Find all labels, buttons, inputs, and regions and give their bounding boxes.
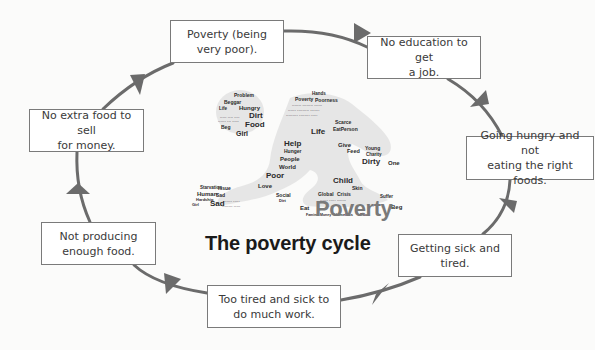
word-cloud-word: Dirt	[279, 199, 286, 203]
cycle-connector	[483, 180, 510, 234]
word-cloud-word: Issue	[218, 186, 231, 191]
arrowhead-icon	[164, 273, 181, 294]
word-cloud-word: One	[388, 160, 400, 166]
arrowhead-icon	[66, 183, 90, 194]
cycle-step-no-education: No education to get a job.	[367, 36, 481, 79]
word-cloud-word: Dirty	[362, 158, 380, 166]
cycle-step-poverty: Poverty (being very poor).	[170, 20, 284, 63]
word-cloud-word: Young	[365, 146, 380, 151]
word-cloud-word: Problem	[234, 93, 254, 98]
word-cloud-word: Beg	[391, 204, 402, 210]
word-cloud-word: Girl	[236, 130, 248, 137]
cycle-step-too-tired: Too tired and sick to do much work.	[207, 285, 341, 328]
word-cloud-word: Poverty	[295, 97, 313, 102]
word-cloud-word: Food	[245, 121, 265, 129]
word-cloud-word: Dirt	[249, 112, 263, 120]
cycle-step-getting-sick: Getting sick and tired.	[398, 234, 512, 277]
word-cloud-word: Eat	[300, 205, 309, 211]
word-cloud-word: Skin	[352, 186, 363, 191]
word-cloud-word: World	[279, 164, 296, 170]
word-cloud-word: Hunger	[284, 149, 302, 154]
word-cloud-word: Hands	[312, 92, 326, 97]
cycle-step-no-extra-food: No extra food to sell for money.	[29, 109, 144, 152]
word-cloud-word: People	[280, 156, 300, 162]
cycle-step-not-producing-food: Not producing enough food.	[41, 222, 156, 265]
word-cloud-word: Life	[311, 128, 325, 136]
cycle-connector	[341, 277, 420, 300]
word-cloud-word: Poor	[266, 172, 284, 180]
word-cloud-word: Scarce	[335, 120, 351, 125]
word-cloud-word: Child	[333, 177, 353, 185]
word-cloud: Problem Beggar Life Hungry Dirt Food Gir…	[212, 90, 412, 220]
word-cloud-word: Help	[284, 140, 301, 148]
word-cloud-word: Feed	[347, 149, 360, 155]
diagram-title: The poverty cycle	[205, 232, 405, 255]
word-cloud-word: EatPerson	[333, 127, 358, 132]
word-cloud-word: Life	[219, 107, 227, 112]
word-cloud-word: Beg	[221, 125, 230, 130]
word-cloud-word: Girl	[192, 203, 199, 207]
word-cloud-word: Love	[258, 183, 272, 189]
word-cloud-word: Sad	[216, 193, 225, 198]
cycle-step-going-hungry: Going hungry and not eating the right fo…	[466, 136, 594, 180]
